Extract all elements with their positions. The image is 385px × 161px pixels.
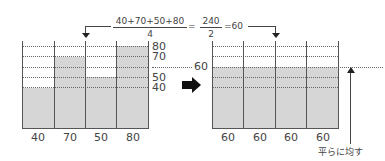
col-value: 60	[221, 131, 235, 144]
col-value: 70	[63, 131, 77, 144]
floor	[212, 128, 339, 129]
wall-left	[22, 41, 23, 129]
denominator: 4	[113, 29, 187, 39]
denominator-2: 2	[200, 29, 222, 39]
arrow-down-right-icon	[272, 33, 280, 38]
wall-right	[148, 41, 149, 129]
col-value: 60	[284, 131, 298, 144]
divider-2	[275, 41, 276, 129]
equals-sign: =	[188, 21, 196, 31]
fraction-bar	[113, 27, 187, 28]
gridline-r-60	[213, 67, 383, 68]
col-value: 80	[126, 131, 140, 144]
level-60-line-left	[152, 67, 192, 68]
formula-fraction-2: 240 2	[200, 16, 222, 39]
fill-col-3	[86, 77, 117, 128]
col-value: 50	[94, 131, 108, 144]
fraction-bar-2	[200, 27, 222, 28]
wall-right	[338, 41, 339, 129]
divider-2	[85, 41, 86, 129]
connector-line-right	[248, 26, 275, 27]
arrow-right-icon-body	[182, 81, 192, 89]
wall-left	[212, 41, 213, 129]
arrow-up-icon	[347, 67, 355, 73]
formula-result: =60	[224, 21, 243, 31]
divider-1	[243, 41, 244, 129]
arrow-right-icon	[192, 77, 201, 93]
caption-level-out: 平らに均す	[318, 145, 363, 158]
scale-label-70: 70	[152, 50, 166, 63]
divider-3	[116, 41, 117, 129]
connector-line-left	[85, 26, 111, 27]
scale-label-40: 40	[152, 81, 166, 94]
fill-col-1	[23, 88, 54, 128]
arrow-down-left-icon	[82, 33, 90, 38]
col-value: 60	[316, 131, 330, 144]
floor	[22, 128, 149, 129]
col-value: 40	[31, 131, 45, 144]
numerator-2: 240	[200, 16, 222, 26]
numerator: 40+70+50+80	[113, 16, 187, 26]
formula-fraction-1: 40+70+50+80 4	[113, 16, 187, 39]
divider-3	[306, 41, 307, 129]
col-value: 60	[253, 131, 267, 144]
divider-1	[54, 41, 55, 129]
level-label-60: 60	[194, 60, 208, 73]
arrow-up-line	[350, 72, 351, 144]
